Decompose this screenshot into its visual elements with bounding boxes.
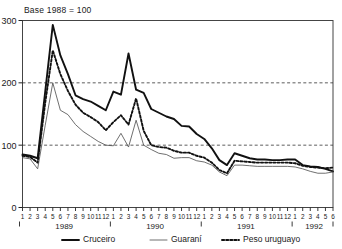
chart-container: Base 1988 = 100 010020030012345678910111… — [0, 0, 342, 249]
x-tick-label: 10 — [269, 213, 277, 220]
plot-frame — [23, 21, 334, 208]
x-tick-label: 1 — [112, 213, 116, 220]
x-tick-label: 11 — [277, 213, 284, 220]
y-tick-label: 200 — [1, 78, 16, 88]
x-tick-label: 1 — [21, 213, 25, 220]
x-tick-label: 8 — [74, 213, 78, 220]
legend-label: Guaraní — [171, 234, 202, 244]
x-tick-label: 6 — [59, 213, 63, 220]
x-tick-label: 2 — [210, 213, 214, 220]
x-tick-label: 6 — [240, 213, 244, 220]
x-tick-label: 10 — [178, 213, 186, 220]
x-tick-label: 3 — [308, 213, 312, 220]
line-chart: 0100200300123456789101112123456789101112… — [0, 0, 342, 249]
x-tick-label: 5 — [233, 213, 237, 220]
x-tick-label: 11 — [186, 213, 193, 220]
x-tick-label: 3 — [36, 213, 40, 220]
year-label: 1991 — [237, 222, 255, 231]
legend-label: Cruceiro — [83, 234, 115, 244]
x-tick-label: 12 — [284, 213, 292, 220]
series-line-peso-uruguayo — [23, 50, 334, 173]
year-label: 1989 — [55, 222, 73, 231]
x-tick-label: 6 — [149, 213, 153, 220]
year-label: 1990 — [146, 222, 164, 231]
x-tick-label: 1 — [293, 213, 297, 220]
legend-label: Peso uruguayo — [243, 234, 300, 244]
x-tick-label: 9 — [263, 213, 267, 220]
y-tick-label: 300 — [1, 16, 16, 26]
x-tick-label: 6 — [331, 213, 335, 220]
x-tick-label: 10 — [87, 213, 95, 220]
y-tick-label: 100 — [1, 141, 16, 151]
x-tick-label: 5 — [51, 213, 55, 220]
x-tick-label: 8 — [165, 213, 169, 220]
x-tick-label: 9 — [81, 213, 85, 220]
x-tick-label: 8 — [255, 213, 259, 220]
x-tick-label: 5 — [324, 213, 328, 220]
x-tick-label: 9 — [172, 213, 176, 220]
x-tick-label: 5 — [142, 213, 146, 220]
x-tick-label: 1 — [202, 213, 206, 220]
x-tick-label: 4 — [225, 213, 229, 220]
x-tick-label: 4 — [134, 213, 138, 220]
x-tick-label: 7 — [248, 213, 252, 220]
x-tick-label: 2 — [119, 213, 123, 220]
y-tick-label: 0 — [11, 203, 16, 213]
series-line-cruceiro — [23, 25, 334, 171]
x-tick-label: 2 — [28, 213, 32, 220]
x-tick-label: 7 — [66, 213, 70, 220]
x-tick-label: 2 — [301, 213, 305, 220]
year-label: 1992 — [305, 222, 323, 231]
x-tick-label: 3 — [218, 213, 222, 220]
x-tick-label: 7 — [157, 213, 161, 220]
x-tick-label: 12 — [193, 213, 201, 220]
x-tick-label: 11 — [95, 213, 102, 220]
x-tick-label: 3 — [127, 213, 131, 220]
x-tick-label: 4 — [43, 213, 47, 220]
x-tick-label: 4 — [316, 213, 320, 220]
x-tick-label: 12 — [102, 213, 110, 220]
